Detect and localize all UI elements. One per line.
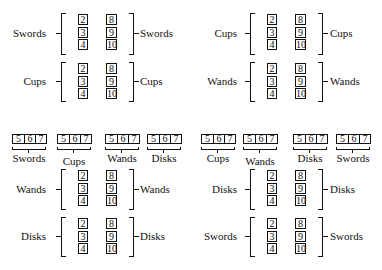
card-cell: 4 — [78, 243, 88, 254]
card-cell: 6 — [69, 135, 80, 143]
card-row: 567 — [336, 134, 371, 144]
card-cell: 8 — [295, 14, 306, 25]
card-cell: 10 — [295, 243, 306, 254]
card-column-low: 234 — [78, 170, 88, 208]
card-cell: 10 — [106, 195, 117, 206]
card-cell: 3 — [78, 231, 88, 242]
card-cell: 7 — [80, 135, 91, 143]
right-connector — [323, 81, 328, 82]
card-cell: 7 — [128, 135, 139, 143]
card-cell: 3 — [78, 183, 88, 194]
card-cell: 4 — [267, 39, 277, 50]
card-cell: 8 — [106, 170, 117, 181]
card-cell: 7 — [170, 135, 181, 143]
right-suit-label: Cups — [330, 27, 353, 39]
card-cell: 2 — [78, 63, 88, 74]
card-cell: 9 — [106, 183, 117, 194]
card-cell: 9 — [106, 231, 117, 242]
card-cell: 4 — [78, 88, 88, 99]
card-cell: 7 — [35, 135, 46, 143]
left-suit-label: Cups — [193, 27, 237, 39]
right-suit-label: Disks — [330, 183, 355, 195]
card-cell: 3 — [267, 183, 277, 194]
left-bracket — [250, 169, 255, 210]
card-column-high: 8910 — [106, 63, 117, 101]
row-suit-label: Swords — [4, 152, 54, 164]
card-cell: 4 — [267, 243, 277, 254]
card-cell: 3 — [267, 231, 277, 242]
left-suit-label: Disks — [193, 183, 237, 195]
card-cell: 6 — [24, 135, 35, 143]
card-column-high: 8910 — [106, 14, 117, 52]
row-suit-label: Swords — [328, 152, 378, 164]
card-cell: 9 — [106, 27, 117, 38]
card-cell: 2 — [267, 63, 277, 74]
card-cell: 2 — [78, 170, 88, 181]
right-connector — [134, 189, 139, 190]
card-cell: 5 — [294, 135, 305, 143]
card-cell: 4 — [78, 195, 88, 206]
card-cell: 6 — [348, 135, 359, 143]
left-suit-label: Cups — [2, 75, 46, 87]
card-cell: 3 — [78, 76, 88, 87]
card-cell: 8 — [295, 170, 306, 181]
card-column-high: 8910 — [295, 170, 306, 208]
left-suit-label: Wands — [193, 75, 237, 87]
card-row: 567 — [243, 134, 278, 144]
row-suit-label: Wands — [235, 155, 285, 167]
card-row: 567 — [12, 134, 47, 144]
card-row: 567 — [147, 134, 182, 144]
card-cell: 10 — [106, 88, 117, 99]
left-suit-label: Wands — [2, 183, 46, 195]
card-cell: 6 — [213, 135, 224, 143]
card-column-low: 234 — [267, 218, 277, 256]
card-cell: 10 — [295, 88, 306, 99]
card-cell: 10 — [106, 39, 117, 50]
card-cell: 10 — [295, 39, 306, 50]
card-cell: 5 — [148, 135, 159, 143]
card-cell: 2 — [78, 14, 88, 25]
card-column-high: 8910 — [106, 218, 117, 256]
card-cell: 7 — [359, 135, 370, 143]
right-suit-label: Swords — [330, 230, 363, 242]
right-connector — [134, 236, 139, 237]
right-suit-label: Swords — [140, 27, 173, 39]
card-cell: 8 — [106, 63, 117, 74]
card-cell: 4 — [267, 88, 277, 99]
right-connector — [134, 81, 139, 82]
card-cell: 7 — [224, 135, 235, 143]
card-cell: 5 — [202, 135, 213, 143]
card-cell: 3 — [267, 27, 277, 38]
card-column-low: 234 — [267, 14, 277, 52]
left-bracket — [61, 62, 66, 102]
underbrace-tick — [259, 150, 260, 153]
card-cell: 5 — [244, 135, 255, 143]
left-suit-label: Disks — [2, 230, 46, 242]
card-cell: 5 — [106, 135, 117, 143]
right-suit-label: Cups — [140, 75, 163, 87]
left-bracket — [250, 62, 255, 102]
card-cell: 2 — [267, 218, 277, 229]
card-cell: 5 — [13, 135, 24, 143]
card-cell: 6 — [159, 135, 170, 143]
left-bracket — [61, 169, 66, 210]
card-column-low: 234 — [78, 14, 88, 52]
row-suit-label: Cups — [49, 155, 99, 167]
card-cell: 10 — [106, 243, 117, 254]
left-bracket — [61, 217, 66, 257]
card-cell: 6 — [305, 135, 316, 143]
left-suit-label: Swords — [2, 27, 46, 39]
row-suit-label: Disks — [139, 152, 189, 164]
left-bracket — [250, 13, 255, 55]
card-cell: 8 — [106, 14, 117, 25]
right-suit-label: Wands — [330, 75, 360, 87]
card-cell: 10 — [295, 195, 306, 206]
card-cell: 9 — [295, 231, 306, 242]
card-cell: 7 — [266, 135, 277, 143]
card-cell: 6 — [255, 135, 266, 143]
card-row: 567 — [293, 134, 328, 144]
card-column-high: 8910 — [295, 63, 306, 101]
card-cell: 6 — [117, 135, 128, 143]
card-cell: 5 — [337, 135, 348, 143]
right-suit-label: Wands — [140, 183, 170, 195]
